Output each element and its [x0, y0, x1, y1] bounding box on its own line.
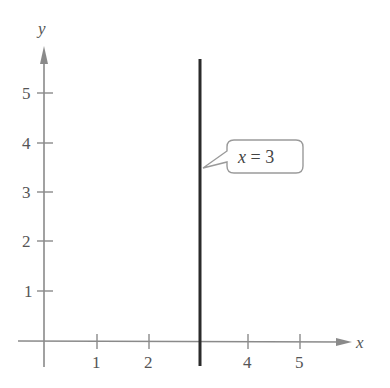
y-tick-label: 4 [22, 134, 31, 153]
y-axis: y [36, 19, 48, 367]
x-axis-label: x [355, 333, 364, 352]
callout-text: x = 3 [237, 147, 274, 167]
chart: y x 5 4 3 2 1 1 2 4 5 x = 3 [0, 0, 390, 388]
callout-label: x = 3 [203, 140, 303, 173]
y-ticks [37, 93, 53, 291]
y-tick-label: 5 [22, 84, 31, 103]
y-tick-labels: 5 4 3 2 1 [22, 84, 33, 301]
x-tick-label: 5 [295, 353, 304, 372]
x-tick-label: 1 [92, 353, 101, 372]
x-axis: x [18, 333, 364, 352]
y-tick-label: 2 [22, 232, 31, 251]
y-tick-label: 3 [22, 183, 31, 202]
x-axis-arrow-icon [336, 338, 352, 346]
x-tick-labels: 1 2 4 5 [92, 353, 304, 372]
y-tick-label: 1 [24, 282, 33, 301]
y-axis-label: y [36, 19, 46, 38]
x-tick-label: 4 [243, 353, 252, 372]
x-tick-label: 2 [144, 353, 153, 372]
y-axis-arrow-icon [40, 46, 48, 64]
